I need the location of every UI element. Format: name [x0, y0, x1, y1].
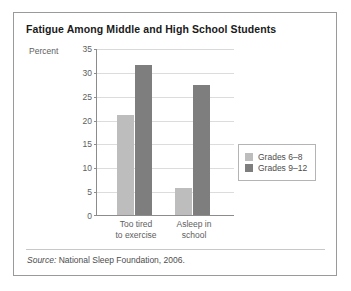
chart-legend: Grades 6–8 Grades 9–12 — [238, 144, 316, 181]
legend-label-grades-6-8: Grades 6–8 — [258, 152, 302, 162]
y-axis-ticks: 35 30 25 20 15 10 5 0 — [66, 49, 92, 216]
category-label-asleep: Asleep in school — [164, 219, 224, 241]
source-note-text: National Sleep Foundation, 2006. — [56, 255, 185, 265]
legend-item-grades-9-12[interactable]: Grades 9–12 — [245, 163, 307, 173]
y-tick-25: 25 — [83, 92, 92, 102]
category-label-asleep-line1: Asleep in — [177, 219, 212, 229]
y-tick-10: 10 — [83, 163, 92, 173]
plot-area — [96, 49, 234, 216]
source-note-prefix: Source: — [27, 255, 56, 265]
y-tick-5: 5 — [87, 187, 92, 197]
category-label-too-tired-line2: to exercise — [115, 230, 156, 240]
bar-grades-9-12-too-tired[interactable] — [135, 65, 152, 215]
legend-swatch-grades-9-12 — [245, 164, 253, 172]
source-divider — [26, 249, 325, 250]
legend-label-grades-9-12: Grades 9–12 — [258, 163, 307, 173]
bar-grades-9-12-asleep[interactable] — [193, 85, 210, 215]
y-axis-unit-label: Percent — [29, 46, 58, 56]
y-tick-20: 20 — [83, 116, 92, 126]
screenshot-root: Fatigue Among Middle and High School Stu… — [0, 0, 351, 291]
bar-grades-6-8-asleep[interactable] — [175, 188, 192, 215]
y-tick-0: 0 — [87, 211, 92, 221]
bar-group-too-tired — [117, 49, 157, 215]
y-tick-35: 35 — [83, 44, 92, 54]
category-label-too-tired: Too tired to exercise — [106, 219, 166, 241]
y-tick-15: 15 — [83, 139, 92, 149]
legend-swatch-grades-6-8 — [245, 153, 253, 161]
bar-group-asleep — [175, 49, 215, 215]
category-label-asleep-line2: school — [182, 230, 207, 240]
chart-title: Fatigue Among Middle and High School Stu… — [26, 23, 276, 35]
bar-grades-6-8-too-tired[interactable] — [117, 115, 134, 215]
source-note: Source: National Sleep Foundation, 2006. — [27, 255, 185, 265]
y-tick-30: 30 — [83, 68, 92, 78]
x-axis-category-labels: Too tired to exercise Asleep in school — [96, 219, 234, 249]
category-label-too-tired-line1: Too tired — [120, 219, 153, 229]
chart-card: Fatigue Among Middle and High School Stu… — [13, 12, 337, 276]
legend-item-grades-6-8[interactable]: Grades 6–8 — [245, 152, 307, 162]
bar-series-container — [97, 49, 234, 215]
tickmark-0 — [94, 215, 97, 216]
